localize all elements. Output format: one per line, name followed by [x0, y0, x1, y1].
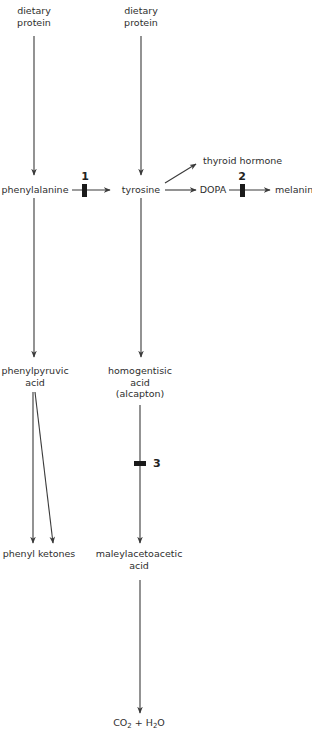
- block-3-bar: [134, 461, 146, 466]
- node-maleylacetoacetic-acid: maleylacetoacetic acid: [96, 548, 183, 571]
- node-text: O: [157, 717, 164, 728]
- node-text: protein: [124, 17, 158, 29]
- node-homogentisic-acid: homogentisic acid (alcapton): [108, 365, 172, 400]
- arrow-phenylpyruvic-to-ketones-b: [35, 392, 53, 543]
- block-1-bar: [82, 184, 87, 197]
- block-2-label: 2: [238, 170, 246, 183]
- node-text: acid: [108, 377, 172, 389]
- node-thyroid-hormone: thyroid hormone: [203, 155, 282, 167]
- block-3-label: 3: [153, 457, 161, 470]
- node-phenylpyruvic-acid: phenylpyruvic acid: [1, 365, 68, 388]
- node-text: dietary: [17, 5, 51, 17]
- node-text: maleylacetoacetic: [96, 548, 183, 560]
- node-melanin: melanin: [275, 184, 312, 196]
- node-tyrosine: tyrosine: [122, 184, 160, 196]
- node-phenyl-ketones: phenyl ketones: [3, 548, 76, 560]
- node-text: homogentisic: [108, 365, 172, 377]
- node-text: acid: [96, 560, 183, 572]
- node-dietary-protein-2: dietary protein: [124, 5, 158, 28]
- node-phenylalanine: phenylalanine: [2, 184, 69, 196]
- node-co2-h2o: CO2 + H2O: [113, 717, 165, 730]
- node-dopa: DOPA: [200, 184, 226, 196]
- block-2-bar: [240, 184, 245, 197]
- node-text: dietary: [124, 5, 158, 17]
- arrow-tyrosine-to-thyroid: [165, 164, 196, 183]
- node-text: (alcapton): [108, 388, 172, 400]
- node-text: protein: [17, 17, 51, 29]
- node-text: acid: [1, 377, 68, 389]
- node-text: phenylpyruvic: [1, 365, 68, 377]
- block-1-label: 1: [81, 170, 89, 183]
- node-dietary-protein-1: dietary protein: [17, 5, 51, 28]
- node-text: + H: [132, 717, 153, 728]
- node-text: CO: [113, 717, 127, 728]
